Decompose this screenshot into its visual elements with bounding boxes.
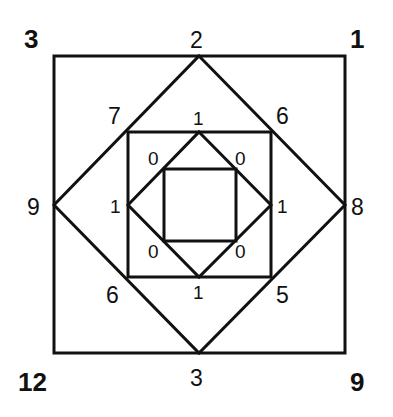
outer-diamond-label-left: 9 <box>27 194 40 220</box>
inner-diamond-label-left: 1 <box>110 196 121 217</box>
outer-diamond-label-right: 8 <box>351 194 364 220</box>
inner-square-label-bottom-left: 0 <box>148 241 159 262</box>
inner-diamond-label-bottom: 1 <box>193 282 204 303</box>
corner-label-top-right: 1 <box>350 24 364 54</box>
middle-square-label-top-right: 6 <box>276 103 289 129</box>
inner-diamond-label-right: 1 <box>277 196 288 217</box>
outer-diamond-label-bottom: 3 <box>190 365 203 391</box>
corner-label-bottom-right: 9 <box>350 367 364 397</box>
inner-square <box>164 169 236 241</box>
inner-square-label-top-left: 0 <box>148 148 159 169</box>
outer-square <box>54 56 345 353</box>
nested-squares-diagram: 3 1 12 9 2 8 3 9 7 6 6 5 1 1 1 1 0 0 0 0 <box>0 0 393 417</box>
inner-square-label-top-right: 0 <box>235 148 246 169</box>
inner-diamond-label-top: 1 <box>193 108 204 129</box>
outer-diamond-label-top: 2 <box>190 27 203 53</box>
middle-square-label-top-left: 7 <box>108 103 121 129</box>
middle-square-label-bottom-right: 5 <box>276 282 289 308</box>
outer-diamond <box>54 56 345 353</box>
middle-square-label-bottom-left: 6 <box>106 282 119 308</box>
corner-label-bottom-left: 12 <box>18 367 47 397</box>
inner-square-label-bottom-right: 0 <box>235 241 246 262</box>
corner-label-top-left: 3 <box>24 24 38 54</box>
